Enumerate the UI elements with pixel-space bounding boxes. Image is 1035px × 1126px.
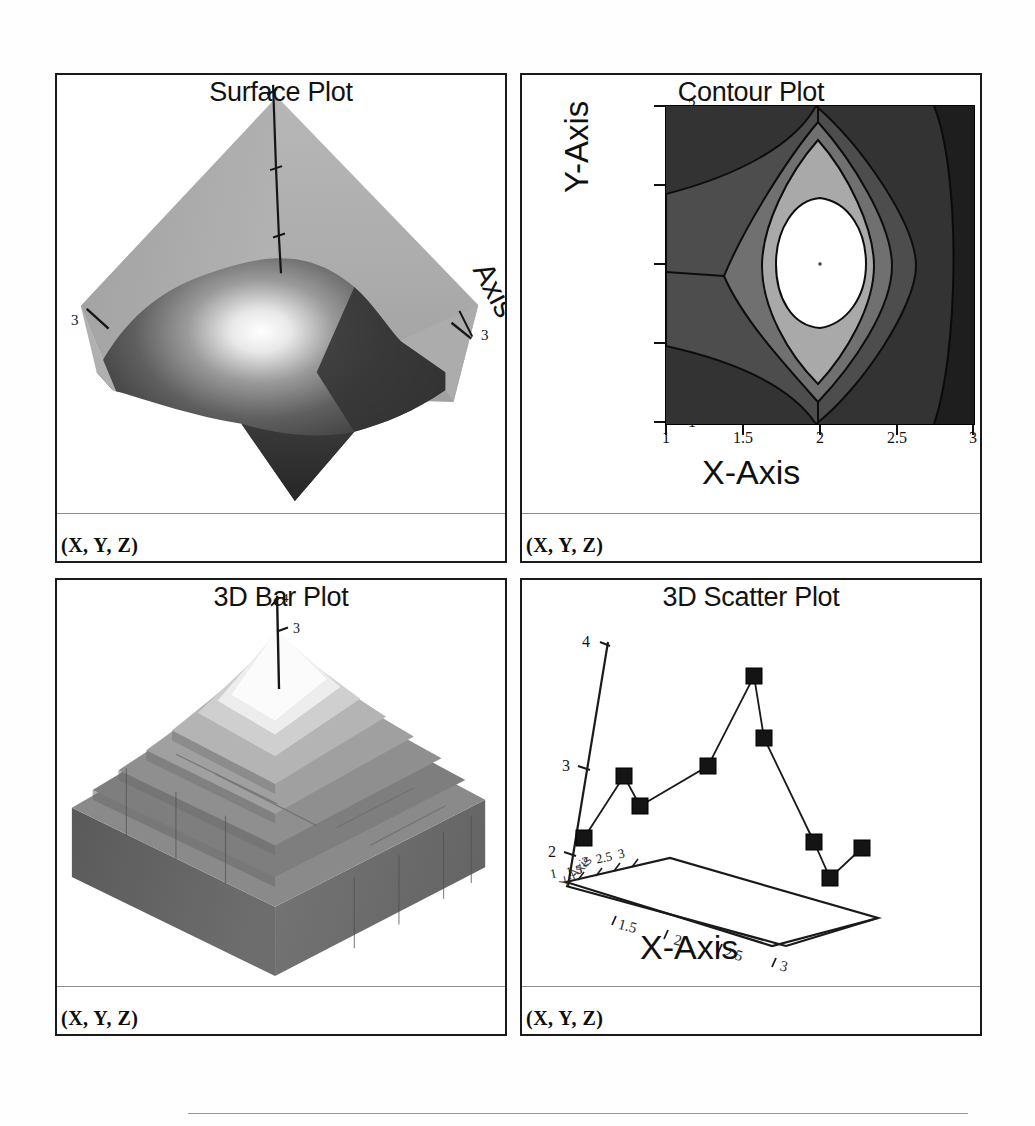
contour-plot-area: Contour Plot 3 2.5 2 1.5 1 1 1.5 2 2.5 3: [522, 75, 980, 513]
panel-contour-plot: Contour Plot 3 2.5 2 1.5 1 1 1.5 2 2.5 3: [520, 73, 982, 563]
scatter-caption: (X, Y, Z): [526, 1007, 603, 1030]
contour-field: [665, 105, 975, 425]
scatter-ztick-2: 2: [548, 843, 556, 861]
contour-caption: (X, Y, Z): [526, 534, 603, 557]
surface-caption: (X, Y, Z): [61, 534, 138, 557]
panel-3d-bar-plot: 3D Bar Plot 4 3 (X, Y, Z): [55, 578, 507, 1036]
page-root: Surface Plot Axis 3 3 (X, Y, Z) Contour …: [0, 0, 1035, 1126]
surface-tick-right: 3: [481, 327, 489, 344]
contour-caption-bar: (X, Y, Z): [522, 513, 980, 561]
bar-tick-top: 4: [282, 590, 289, 606]
surface-front-valley: [241, 424, 354, 501]
scatter-point-2: [616, 768, 632, 784]
scatter-point-4: [700, 758, 716, 774]
scatter-point-7: [806, 834, 822, 850]
scatter-point-1: [576, 830, 592, 846]
bar-tick-upper: 3: [293, 621, 300, 637]
surface-caption-bar: (X, Y, Z): [57, 513, 505, 561]
scatter-floor-right-edge: [786, 918, 878, 946]
scatter-ztick-4: 4: [582, 633, 590, 651]
panel-surface-plot: Surface Plot Axis 3 3 (X, Y, Z): [55, 73, 507, 563]
scatter-x-axis-label: X-Axis: [640, 928, 738, 967]
scatter-point-5: [746, 668, 762, 684]
scatter-plot-graphic: [522, 580, 980, 986]
scatter-point-6: [756, 730, 772, 746]
contour-plot-title: Contour Plot: [522, 77, 980, 108]
scatter-plot-title: 3D Scatter Plot: [522, 582, 980, 613]
surface-plot-area: Surface Plot Axis 3 3: [57, 75, 505, 513]
bar-caption: (X, Y, Z): [61, 1007, 138, 1030]
scatter-ztick-3: 3: [562, 757, 570, 775]
contour-y-axis-label: Y-Axis: [558, 101, 596, 193]
scatter-point-8: [822, 870, 838, 886]
surface-plot-graphic: [57, 75, 505, 513]
bar-plot-graphic: [57, 580, 505, 986]
bar-plot-area: 3D Bar Plot 4 3: [57, 580, 505, 986]
bar-caption-bar: (X, Y, Z): [57, 986, 505, 1034]
panel-3d-scatter-plot: 3D Scatter Plot: [520, 578, 982, 1036]
scatter-caption-bar: (X, Y, Z): [522, 986, 980, 1034]
contour-center-marker: [818, 262, 822, 266]
scatter-plot-area: 3D Scatter Plot: [522, 580, 980, 986]
surface-tick-left: 3: [71, 312, 79, 329]
scatter-ytick-2p5: 2.5: [595, 848, 614, 867]
scatter-point-9: [854, 840, 870, 856]
page-bottom-rule: [188, 1113, 968, 1114]
contour-x-axis-label: X-Axis: [702, 453, 800, 492]
surface-plot-title: Surface Plot: [57, 77, 505, 108]
bar-plot-title: 3D Bar Plot: [57, 582, 505, 613]
scatter-point-3: [632, 798, 648, 814]
contour-levels: [666, 106, 974, 424]
